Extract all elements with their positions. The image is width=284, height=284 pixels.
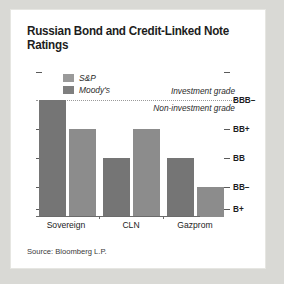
bar-cln-sp <box>103 158 130 217</box>
x-tick-1 <box>99 216 100 219</box>
legend-label-moodys: Moody's <box>79 85 110 95</box>
legend-swatch-moodys <box>63 86 74 94</box>
category-label-sovereign: Sovereign <box>35 220 97 230</box>
annotation-non-investment-grade: Non-investment grade <box>153 103 235 113</box>
investment-grade-divider <box>36 100 236 101</box>
legend-swatch-sp <box>63 74 74 82</box>
category-label-gazprom: Gazprom <box>164 220 226 230</box>
y-axis-label-b-plus: B+ <box>233 205 244 214</box>
legend-item-sp: S&P <box>63 73 110 83</box>
y-axis-label-bb-minus: BB– <box>233 183 249 192</box>
right-tick-bbplus <box>224 129 230 130</box>
bar-gazprom-sp <box>167 158 194 217</box>
legend: S&P Moody's <box>63 73 110 97</box>
left-tick-top <box>36 72 42 73</box>
chart-card: Russian Bond and Credit-Linked Note Rati… <box>11 10 265 268</box>
bar-sovereign-moodys <box>69 129 96 217</box>
right-tick-top <box>224 72 230 73</box>
legend-item-moodys: Moody's <box>63 85 110 95</box>
right-tick-bplus <box>224 209 230 210</box>
category-label-cln: CLN <box>100 220 162 230</box>
y-axis-label-bb: BB <box>233 154 245 163</box>
right-tick-bbminus <box>224 187 230 188</box>
bar-gazprom-moodys <box>197 187 224 217</box>
bar-chart-plot: BBB– BB+ BB BB– B+ Investment grade Non-… <box>11 10 265 268</box>
annotation-investment-grade: Investment grade <box>171 86 235 96</box>
legend-label-sp: S&P <box>79 73 96 83</box>
y-axis-label-bbb-minus: BBB– <box>233 96 255 105</box>
bar-sovereign-sp <box>39 100 66 217</box>
bar-cln-moodys <box>133 129 160 217</box>
x-tick-2 <box>163 216 164 219</box>
source-note: Source: Bloomberg L.P. <box>27 247 107 256</box>
x-axis-baseline <box>36 216 200 217</box>
y-axis-label-bb-plus: BB+ <box>233 125 250 134</box>
right-tick-bb <box>224 158 230 159</box>
